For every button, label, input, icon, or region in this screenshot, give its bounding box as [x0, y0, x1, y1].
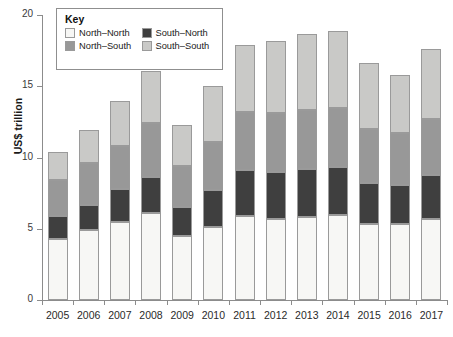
bar-segment — [110, 101, 130, 147]
bar-segment — [328, 215, 348, 301]
bar-segment — [172, 236, 192, 300]
bar-segment — [79, 205, 99, 231]
bar-segment — [48, 152, 68, 181]
y-tick: 10 — [37, 158, 43, 159]
x-tick — [198, 300, 199, 305]
bar-segment — [141, 213, 161, 300]
bar-segment — [297, 34, 317, 111]
bar-2012 — [266, 15, 286, 300]
bar-segment — [141, 71, 161, 124]
x-axis-line — [42, 300, 447, 301]
bar-segment — [297, 169, 317, 217]
legend-item-label: South–North — [156, 28, 208, 38]
x-tick — [135, 300, 136, 305]
bar-segment — [266, 172, 286, 219]
bar-segment — [48, 216, 68, 239]
x-tick — [291, 300, 292, 305]
bar-segment — [266, 219, 286, 300]
legend-item-label: South–South — [156, 41, 210, 51]
bar-segment — [141, 177, 161, 213]
y-tick-label: 15 — [22, 79, 33, 90]
y-tick-label: 0 — [27, 293, 33, 304]
x-tick — [260, 300, 261, 305]
bar-segment — [359, 183, 379, 224]
bar-segment — [235, 45, 255, 112]
x-tick — [322, 300, 323, 305]
bar-2015 — [359, 15, 379, 300]
bar-segment — [359, 129, 379, 183]
bar-segment — [328, 167, 348, 214]
bar-segment — [203, 142, 223, 190]
x-tick — [354, 300, 355, 305]
y-tick: 20 — [37, 15, 43, 16]
bar-segment — [110, 146, 130, 189]
legend-items: North–NorthSouth–NorthNorth–SouthSouth–S… — [65, 28, 216, 51]
bar-segment — [266, 41, 286, 114]
legend-item: South–North — [142, 28, 217, 38]
bar-segment — [79, 130, 99, 163]
x-tick — [42, 300, 43, 305]
y-tick: 5 — [37, 229, 43, 230]
y-tick-label: 10 — [22, 151, 33, 162]
bar-segment — [390, 185, 410, 225]
bar-segment — [421, 175, 441, 219]
bar-segment — [266, 113, 286, 171]
bar-segment — [390, 224, 410, 300]
bar-segment — [328, 108, 348, 168]
x-tick — [104, 300, 105, 305]
bar-segment — [390, 133, 410, 184]
bar-segment — [203, 190, 223, 227]
legend-swatch-icon — [65, 41, 75, 51]
bar-segment — [328, 31, 348, 108]
bar-segment — [141, 123, 161, 177]
y-tick-label: 5 — [27, 222, 33, 233]
bar-segment — [297, 110, 317, 168]
bar-segment — [110, 222, 130, 300]
bar-segment — [110, 189, 130, 222]
x-tick — [167, 300, 168, 305]
bar-segment — [421, 219, 441, 300]
legend-item: South–South — [142, 41, 217, 51]
x-tick — [447, 300, 448, 305]
bar-segment — [235, 170, 255, 216]
bar-2017 — [421, 15, 441, 300]
bar-segment — [421, 119, 441, 175]
bar-segment — [79, 163, 99, 204]
bar-segment — [421, 49, 441, 119]
bar-segment — [297, 217, 317, 300]
bar-segment — [79, 230, 99, 300]
bar-2016 — [390, 15, 410, 300]
bar-segment — [48, 239, 68, 300]
bar-segment — [359, 224, 379, 300]
legend-item: North–South — [65, 41, 140, 51]
bar-segment — [203, 86, 223, 142]
legend-item-label: North–North — [79, 28, 130, 38]
bar-segment — [235, 112, 255, 170]
bar-segment — [235, 216, 255, 300]
bar-segment — [203, 227, 223, 300]
legend-swatch-icon — [65, 28, 75, 38]
legend-item: North–North — [65, 28, 140, 38]
legend-swatch-icon — [142, 41, 152, 51]
x-tick — [229, 300, 230, 305]
bar-segment — [172, 166, 192, 207]
bar-segment — [390, 75, 410, 133]
y-tick-label: 20 — [22, 8, 33, 19]
y-tick: 15 — [37, 86, 43, 87]
bar-segment — [359, 63, 379, 129]
stacked-bar-chart: US$ trillion 05101520 200520062007200820… — [0, 0, 453, 337]
legend-item-label: North–South — [79, 41, 131, 51]
legend-swatch-icon — [142, 28, 152, 38]
bar-2011 — [235, 15, 255, 300]
bar-segment — [172, 207, 192, 236]
x-tick — [73, 300, 74, 305]
x-tick — [385, 300, 386, 305]
bar-segment — [48, 180, 68, 216]
bar-segment — [172, 125, 192, 166]
legend-title: Key — [65, 13, 216, 25]
bar-2014 — [328, 15, 348, 300]
x-tick-label: 2017 — [411, 309, 451, 321]
bar-2013 — [297, 15, 317, 300]
legend: Key North–NorthSouth–NorthNorth–SouthSou… — [56, 8, 223, 70]
x-tick — [416, 300, 417, 305]
